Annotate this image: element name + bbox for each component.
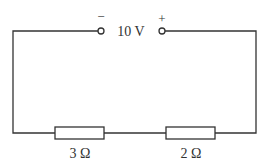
resistor-2-ohm — [166, 127, 215, 139]
resistor-2-ohm-label: 2 Ω — [181, 146, 202, 161]
voltage-label: 10 V — [117, 24, 144, 39]
positive-terminal — [159, 28, 165, 34]
circuit-diagram: − + 10 V 3 Ω 2 Ω — [0, 0, 272, 168]
negative-terminal — [98, 28, 104, 34]
wire-left — [13, 31, 98, 133]
plus-sign: + — [158, 11, 165, 26]
wire-right — [165, 31, 256, 133]
resistor-3-ohm-label: 3 Ω — [70, 146, 91, 161]
minus-sign: − — [97, 9, 104, 24]
resistor-3-ohm — [55, 127, 104, 139]
wires — [13, 31, 256, 133]
